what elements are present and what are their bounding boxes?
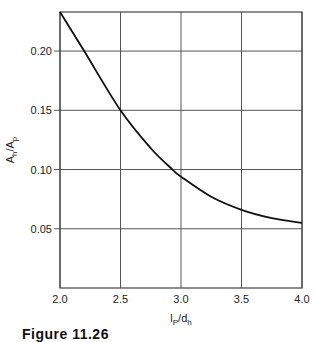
- y-tick-label: 0.20: [31, 45, 52, 57]
- y-tick-label: 0.05: [31, 223, 52, 235]
- x-tick-label: 2.5: [113, 293, 128, 305]
- y-axis-ticks: 0.050.100.150.20: [31, 45, 52, 235]
- x-tick-label: 2.0: [52, 293, 67, 305]
- x-axis-label: lP/dh: [170, 312, 191, 327]
- y-axis-label: Ah/Ap: [4, 136, 19, 163]
- x-tick-label: 3.0: [173, 293, 188, 305]
- x-tick-label: 3.5: [234, 293, 249, 305]
- y-tick-label: 0.10: [31, 164, 52, 176]
- x-tick-label: 4.0: [294, 293, 309, 305]
- x-axis-ticks: 2.02.53.03.54.0: [52, 293, 309, 305]
- figure-caption: Figure 11.26: [22, 326, 109, 342]
- y-tick-label: 0.15: [31, 104, 52, 116]
- grid-lines: [54, 12, 302, 288]
